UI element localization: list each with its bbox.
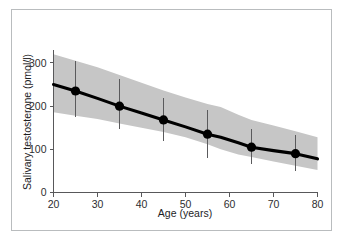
x-tick-label: 60 <box>224 198 236 210</box>
data-point <box>71 86 80 95</box>
x-axis-title: Age (years) <box>158 207 212 219</box>
figure-container: 0100200300 20304050607080 Age (years) Sa… <box>0 0 343 241</box>
data-point <box>247 143 256 152</box>
salivary-testosterone-line-chart: 0100200300 20304050607080 Age (years) Sa… <box>0 0 343 241</box>
data-point <box>291 149 300 158</box>
x-tick-label: 20 <box>48 198 60 210</box>
data-point <box>159 115 168 124</box>
x-tick-label: 40 <box>136 198 148 210</box>
data-point <box>115 102 124 111</box>
x-tick-label: 80 <box>312 198 324 210</box>
y-axis-title: Salivary testosterone (pmol/l) <box>21 54 33 190</box>
y-tick-label: 0 <box>41 186 47 198</box>
x-tick-label: 30 <box>92 198 104 210</box>
data-point <box>203 130 212 139</box>
x-tick-label: 70 <box>268 198 280 210</box>
